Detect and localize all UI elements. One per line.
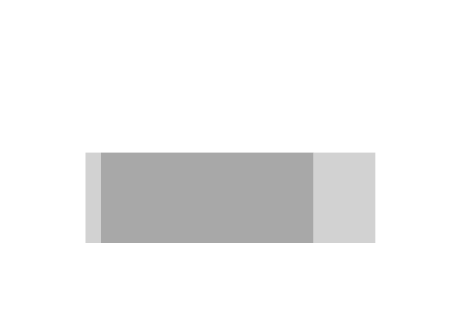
region-theta2: [101, 153, 314, 243]
figure-canvas: [0, 0, 456, 309]
levenspiel-plot-figure: [0, 0, 456, 309]
region-theta1: [314, 153, 376, 243]
region-theta3: [86, 153, 101, 243]
